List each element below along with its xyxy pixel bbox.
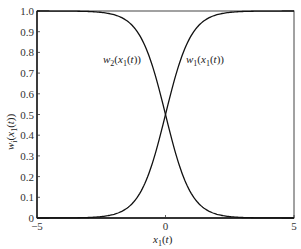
- y-tick-label: 0.4: [20, 129, 34, 141]
- y-tick-label: 0.2: [20, 171, 34, 183]
- y-tick-label: 0.8: [20, 46, 34, 58]
- chart-canvas: 00.10.20.30.40.50.60.70.80.91.0 −505 w2(…: [0, 0, 301, 249]
- y-tick-label: 0.5: [20, 109, 34, 121]
- x-tick-label: −5: [31, 220, 43, 232]
- x-tick-label: 5: [291, 220, 297, 232]
- curve-w2: [37, 11, 294, 218]
- y-axis-title: wi(x1(t)): [4, 113, 19, 150]
- y-tick-label: 0.9: [20, 26, 34, 38]
- y-tick-label: 0.7: [20, 67, 34, 79]
- x-axis-title: x1(t): [152, 233, 173, 248]
- label-w1: w1(x1(t)): [186, 53, 224, 68]
- label-w2: w2(x1(t)): [103, 53, 141, 68]
- y-tick-label: 0.1: [20, 191, 34, 203]
- y-tick-label: 0.6: [20, 88, 34, 100]
- x-tick-label: 0: [163, 220, 169, 232]
- y-tick-label: 1.0: [20, 5, 34, 17]
- y-tick-label: 0.3: [20, 150, 34, 162]
